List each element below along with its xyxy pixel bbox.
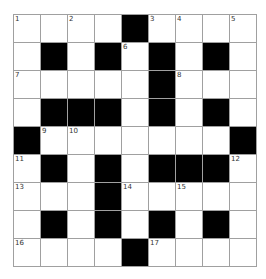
crossword-cell[interactable]: 15 bbox=[176, 183, 203, 211]
clue-number: 8 bbox=[177, 71, 181, 79]
crossword-cell[interactable] bbox=[95, 15, 122, 43]
crossword-cell[interactable] bbox=[68, 155, 95, 183]
crossword-cell[interactable] bbox=[176, 211, 203, 239]
block-cell bbox=[95, 43, 122, 71]
crossword-cell[interactable] bbox=[68, 71, 95, 99]
crossword-cell[interactable] bbox=[41, 71, 68, 99]
crossword-cell[interactable] bbox=[68, 211, 95, 239]
clue-number: 5 bbox=[231, 15, 235, 23]
block-cell bbox=[149, 155, 176, 183]
crossword-cell[interactable] bbox=[41, 239, 68, 267]
crossword-cell[interactable]: 10 bbox=[68, 127, 95, 155]
crossword-cell[interactable]: 17 bbox=[149, 239, 176, 267]
crossword-cell[interactable] bbox=[41, 15, 68, 43]
crossword-cell[interactable] bbox=[230, 71, 257, 99]
crossword-cell[interactable]: 6 bbox=[122, 43, 149, 71]
crossword-cell[interactable]: 3 bbox=[149, 15, 176, 43]
crossword-cell[interactable]: 5 bbox=[230, 15, 257, 43]
crossword-cell[interactable] bbox=[176, 127, 203, 155]
block-cell bbox=[149, 43, 176, 71]
crossword-cell[interactable]: 14 bbox=[122, 183, 149, 211]
crossword-cell[interactable] bbox=[122, 71, 149, 99]
crossword-cell[interactable] bbox=[122, 211, 149, 239]
crossword-cell[interactable] bbox=[95, 239, 122, 267]
crossword-cell[interactable] bbox=[230, 211, 257, 239]
crossword-cell[interactable] bbox=[203, 183, 230, 211]
crossword-cell[interactable] bbox=[68, 43, 95, 71]
crossword-cell[interactable] bbox=[230, 43, 257, 71]
clue-number: 2 bbox=[69, 15, 73, 23]
block-cell bbox=[203, 43, 230, 71]
clue-number: 9 bbox=[42, 127, 46, 135]
block-cell bbox=[203, 155, 230, 183]
block-cell bbox=[41, 211, 68, 239]
crossword-cell[interactable] bbox=[95, 71, 122, 99]
crossword-cell[interactable] bbox=[149, 183, 176, 211]
crossword-cell[interactable]: 11 bbox=[14, 155, 41, 183]
crossword-cell[interactable] bbox=[95, 127, 122, 155]
block-cell bbox=[203, 99, 230, 127]
crossword-cell[interactable] bbox=[230, 239, 257, 267]
clue-number: 13 bbox=[15, 183, 24, 191]
block-cell bbox=[176, 155, 203, 183]
clue-number: 7 bbox=[15, 71, 19, 79]
clue-number: 11 bbox=[15, 155, 24, 163]
crossword-cell[interactable]: 4 bbox=[176, 15, 203, 43]
block-cell bbox=[41, 99, 68, 127]
clue-number: 4 bbox=[177, 15, 181, 23]
crossword-cell[interactable] bbox=[14, 99, 41, 127]
crossword-cell[interactable] bbox=[203, 71, 230, 99]
block-cell bbox=[95, 183, 122, 211]
block-cell bbox=[149, 211, 176, 239]
clue-number: 15 bbox=[177, 183, 186, 191]
crossword-grid: 1234567891011121314151617 bbox=[13, 14, 257, 267]
crossword-cell[interactable] bbox=[68, 239, 95, 267]
crossword-cell[interactable]: 13 bbox=[14, 183, 41, 211]
block-cell bbox=[41, 43, 68, 71]
clue-number: 12 bbox=[231, 155, 240, 163]
crossword-cell[interactable]: 8 bbox=[176, 71, 203, 99]
crossword-cell[interactable] bbox=[122, 155, 149, 183]
crossword-cell[interactable]: 16 bbox=[14, 239, 41, 267]
crossword-cell[interactable] bbox=[122, 127, 149, 155]
crossword-cell[interactable]: 12 bbox=[230, 155, 257, 183]
clue-number: 3 bbox=[150, 15, 154, 23]
block-cell bbox=[95, 99, 122, 127]
block-cell bbox=[95, 155, 122, 183]
crossword-cell[interactable] bbox=[14, 211, 41, 239]
clue-number: 10 bbox=[69, 127, 78, 135]
crossword-cell[interactable] bbox=[41, 183, 68, 211]
crossword-cell[interactable] bbox=[149, 127, 176, 155]
clue-number: 16 bbox=[15, 239, 24, 247]
crossword-cell[interactable] bbox=[203, 15, 230, 43]
clue-number: 17 bbox=[150, 239, 159, 247]
block-cell bbox=[149, 71, 176, 99]
block-cell bbox=[14, 127, 41, 155]
crossword-cell[interactable] bbox=[68, 183, 95, 211]
clue-number: 14 bbox=[123, 183, 132, 191]
crossword-cell[interactable] bbox=[122, 99, 149, 127]
crossword-cell[interactable]: 7 bbox=[14, 71, 41, 99]
crossword-cell[interactable] bbox=[176, 43, 203, 71]
block-cell bbox=[230, 127, 257, 155]
block-cell bbox=[122, 15, 149, 43]
crossword-cell[interactable]: 9 bbox=[41, 127, 68, 155]
clue-number: 6 bbox=[123, 43, 127, 51]
block-cell bbox=[41, 155, 68, 183]
crossword-cell[interactable] bbox=[203, 127, 230, 155]
crossword-cell[interactable] bbox=[14, 43, 41, 71]
block-cell bbox=[68, 99, 95, 127]
clue-number: 1 bbox=[15, 15, 19, 23]
crossword-cell[interactable]: 1 bbox=[14, 15, 41, 43]
block-cell bbox=[149, 99, 176, 127]
block-cell bbox=[95, 211, 122, 239]
crossword-cell[interactable] bbox=[230, 99, 257, 127]
crossword-cell[interactable]: 2 bbox=[68, 15, 95, 43]
crossword-cell[interactable] bbox=[176, 99, 203, 127]
crossword-cell[interactable] bbox=[203, 239, 230, 267]
block-cell bbox=[203, 211, 230, 239]
crossword-cell[interactable] bbox=[176, 239, 203, 267]
block-cell bbox=[122, 239, 149, 267]
crossword-cell[interactable] bbox=[230, 183, 257, 211]
